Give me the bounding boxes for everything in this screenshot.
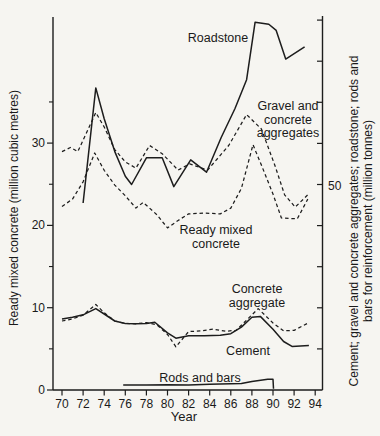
left-axis-tick-label: 30 xyxy=(32,136,45,150)
x-tick-label: 74 xyxy=(98,397,111,411)
series-line-ready-mixed xyxy=(62,145,308,228)
x-tick-label: 90 xyxy=(266,397,279,411)
x-tick-label: 70 xyxy=(55,397,68,411)
x-tick-label: 72 xyxy=(76,397,89,411)
series-label-gravel: Gravel andconcreteaggregates xyxy=(257,100,320,141)
left-axis-title-text: Ready mixed concrete (million cubic metr… xyxy=(7,90,21,326)
x-tick-label: 92 xyxy=(287,397,300,411)
series-label-ready-mixed: Ready mixedconcrete xyxy=(180,224,253,251)
x-tick-label: 82 xyxy=(182,397,195,411)
x-tick-label: 84 xyxy=(203,397,216,411)
series-label-line: Concrete xyxy=(229,283,285,297)
series-label-roadstone: Roadstone xyxy=(188,32,248,46)
axes-frame xyxy=(53,16,323,390)
x-tick-label: 88 xyxy=(245,397,258,411)
x-axis-title: Year xyxy=(171,409,197,424)
left-axis-tick-label: 20 xyxy=(32,218,45,232)
left-axis-tick-label: 10 xyxy=(32,301,45,315)
series-line-cement xyxy=(62,309,309,347)
series-label-line: concrete xyxy=(257,113,320,127)
x-tick-label: 78 xyxy=(140,397,153,411)
x-tick-label: 80 xyxy=(161,397,174,411)
series-label-line: Rods and bars xyxy=(159,372,240,386)
series-label-line: aggregate xyxy=(229,296,285,310)
right-axis-title-line1: Cement; gravel and concrete aggregates; … xyxy=(347,56,361,387)
series-label-line: aggregates xyxy=(257,127,320,141)
series-label-concrete-aggregate: Concreteaggregate xyxy=(229,283,285,310)
series-label-cement: Cement xyxy=(226,345,270,359)
x-tick-label: 94 xyxy=(309,397,322,411)
series-label-line: Cement xyxy=(226,345,270,359)
right-axis-tick-label: 50 xyxy=(328,179,341,193)
x-tick-label: 76 xyxy=(119,397,132,411)
left-axis-tick-label: 0 xyxy=(38,383,45,397)
x-tick-label: 86 xyxy=(224,397,237,411)
chart-figure: Ready mixed concrete (million cubic metr… xyxy=(0,0,380,436)
series-label-line: Roadstone xyxy=(188,32,248,46)
series-label-line: Ready mixed xyxy=(180,224,253,238)
right-axis-title-line2: bars for reinforcement (million tonnes) xyxy=(361,56,375,387)
series-label-rods: Rods and bars xyxy=(159,372,240,386)
series-label-line: concrete xyxy=(180,237,253,251)
series-label-line: Gravel and xyxy=(257,100,320,114)
